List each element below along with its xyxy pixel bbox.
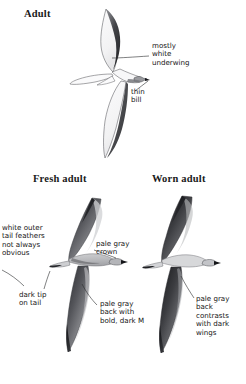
adult-bird-group (70, 9, 150, 158)
annotation-mostly-white-underwing: mostly white underwing (152, 42, 190, 67)
worn-back-mantle (162, 255, 209, 267)
leader-line-white-outer-tail (2, 270, 24, 286)
fresh-adult-bird-group (49, 198, 128, 352)
adult-left-wing (101, 9, 117, 72)
worn-bill (214, 261, 221, 265)
adult-bill (145, 78, 150, 81)
leader-line-back-contrasts (181, 276, 194, 298)
illustration-plate: Adult Fresh adult Worn adult (0, 0, 246, 384)
annotation-thin-bill: thin bill (131, 88, 145, 105)
fresh-bill (121, 260, 128, 264)
annotation-dark-tip-on-tail: dark tip on tail (19, 291, 46, 308)
annotation-pale-gray-back-bold-dark-m: pale gray back with bold, dark M (100, 300, 144, 325)
leader-line-dark-tip (44, 271, 50, 289)
annotation-pale-gray-back-contrasts: pale gray back contrasts with dark wings (196, 295, 229, 337)
annotation-pale-gray-crown: pale gray crown (96, 240, 129, 257)
annotation-white-outer-tail-feathers: white outer tail feathers not always obv… (2, 224, 45, 258)
